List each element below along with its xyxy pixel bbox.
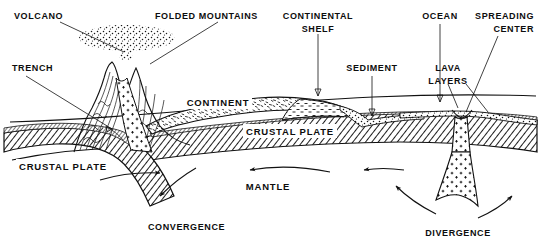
leader-lava-layers-a <box>448 84 458 108</box>
label-volcano: VOLCANO <box>14 11 63 21</box>
label-lava-layers-line2: LAYERS <box>428 76 467 86</box>
label-continent: CONTINENT <box>187 97 250 108</box>
plate-tectonics-diagram: VOLCANO FOLDED MOUNTAINS CONTINENTAL SHE… <box>0 0 539 244</box>
label-folded-mountains: FOLDED MOUNTAINS <box>155 11 258 21</box>
arrow-mantle-inward <box>364 169 404 171</box>
label-lava-layers-line1: LAVA <box>435 63 461 73</box>
arrow-mantle-left <box>250 167 330 172</box>
arrow-lower-right <box>478 196 512 218</box>
label-convergence: CONVERGENCE <box>148 222 225 232</box>
label-continental-shelf-line1: CONTINENTAL <box>283 11 353 21</box>
label-mantle: MANTLE <box>246 181 290 192</box>
label-spreading-center-line1: SPREADING <box>475 11 534 21</box>
label-crustal-plate-right: CRUSTAL PLATE <box>246 126 334 137</box>
leader-spreading-center <box>466 36 498 112</box>
arrow-lower-left <box>396 186 436 214</box>
label-spreading-center-line2: CENTER <box>493 24 534 34</box>
label-trench: TRENCH <box>12 63 53 73</box>
label-sediment: SEDIMENT <box>346 63 397 73</box>
label-continental-shelf-line2: SHELF <box>302 24 335 34</box>
cross-section-illustration: VOLCANO FOLDED MOUNTAINS CONTINENTAL SHE… <box>0 0 539 244</box>
label-crustal-plate-left: CRUSTAL PLATE <box>19 161 107 172</box>
leader-lava-layers-b <box>466 84 488 112</box>
label-ocean: OCEAN <box>422 11 458 21</box>
label-divergence: DIVERGENCE <box>425 228 491 238</box>
volcano-ash-plume <box>79 25 175 60</box>
